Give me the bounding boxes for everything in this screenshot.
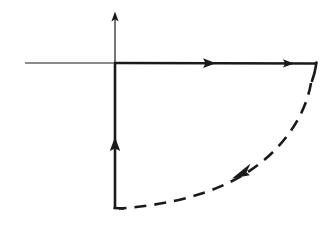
inward-segment-group [110, 63, 124, 209]
contour-svg-canvas [0, 0, 333, 233]
return-arc-dashed-path [119, 83, 311, 209]
contour-diagram [0, 0, 333, 233]
return-arc-group [119, 83, 311, 209]
inward-segment-foot [114, 208, 125, 209]
outward-segment-group [114, 58, 317, 68]
outer-radius-corner-stub [312, 63, 317, 82]
axes-group [25, 12, 119, 64]
